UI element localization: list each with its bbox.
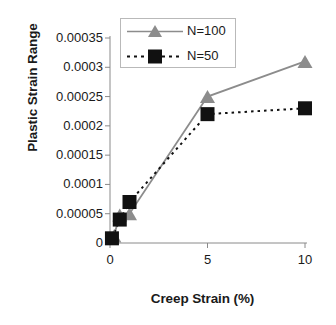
legend-label-n100: N=100 xyxy=(187,23,226,39)
series-markers-n-100 xyxy=(298,55,313,68)
legend-item-n50: N=50 xyxy=(121,44,237,69)
chart-legend: N=100 N=50 xyxy=(120,18,236,68)
legend-key-n50-icon xyxy=(125,44,185,69)
series-markers-n-50 xyxy=(123,195,137,209)
legend-item-n100: N=100 xyxy=(121,19,237,44)
series-markers-n-50 xyxy=(113,213,127,227)
chart-container: Plastic Strain Range Creep Strain (%) 00… xyxy=(0,0,336,325)
legend-label-n50: N=50 xyxy=(187,48,218,64)
series-markers-n-50 xyxy=(298,101,312,115)
series-markers-n-50 xyxy=(201,107,215,121)
series-line-n-100 xyxy=(114,61,305,236)
series-markers-n-50 xyxy=(105,231,119,245)
legend-key-n100-icon xyxy=(125,19,185,44)
series-markers-n-100 xyxy=(200,90,215,103)
series-line-n-50 xyxy=(112,108,305,238)
